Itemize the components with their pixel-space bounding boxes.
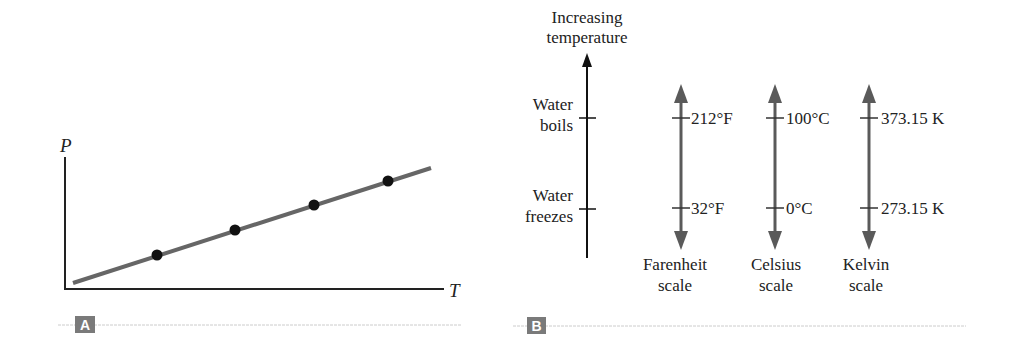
panel-b-caption: B — [513, 317, 966, 334]
panel-b-diagram: Increasing temperature Water boils Water… — [525, 8, 945, 295]
water-boils-line1: Water — [533, 95, 573, 114]
trend-line — [73, 168, 431, 283]
kelvin-name-line1: Kelvin — [843, 255, 890, 274]
celsius-name-line2: scale — [759, 276, 793, 295]
up-arrow-icon — [674, 84, 688, 103]
data-point — [230, 225, 241, 236]
fahrenheit-boil-value: 212°F — [691, 109, 733, 128]
panel-label-b: B — [531, 318, 541, 334]
water-boils-line2: boils — [540, 116, 573, 135]
figure: P T A Increasing temperature Water boils… — [0, 0, 1015, 363]
fahrenheit-name-line2: scale — [658, 276, 692, 295]
panel-label-a: A — [80, 317, 90, 333]
celsius-boil-value: 100°C — [786, 109, 830, 128]
fahrenheit-name-line1: Farenheit — [643, 255, 707, 274]
kelvin-name-line2: scale — [849, 276, 883, 295]
panel-a-caption: A — [58, 316, 462, 333]
up-arrow-icon — [862, 84, 876, 103]
fahrenheit-freeze-value: 32°F — [691, 199, 724, 218]
data-point — [309, 200, 320, 211]
water-freezes-line2: freezes — [525, 207, 573, 226]
increasing-temperature-line2: temperature — [546, 28, 627, 47]
kelvin-freeze-value: 273.15 K — [881, 199, 945, 218]
data-point — [152, 250, 163, 261]
fahrenheit-scale: 212°F 32°F Farenheit scale — [643, 84, 733, 295]
up-arrow-icon — [768, 84, 782, 103]
increasing-temperature-line1: Increasing — [552, 8, 623, 27]
y-axis-label: P — [59, 135, 72, 156]
x-axis-label: T — [449, 280, 461, 301]
down-arrow-icon — [768, 231, 782, 250]
arrow-head-icon — [582, 53, 592, 67]
celsius-scale: 100°C 0°C Celsius scale — [751, 84, 830, 295]
panel-a-chart: P T — [59, 135, 461, 301]
down-arrow-icon — [674, 231, 688, 250]
celsius-name-line1: Celsius — [751, 255, 801, 274]
water-freezes-line1: Water — [533, 186, 573, 205]
celsius-freeze-value: 0°C — [786, 199, 813, 218]
down-arrow-icon — [862, 231, 876, 250]
kelvin-boil-value: 373.15 K — [881, 109, 945, 128]
kelvin-scale: 373.15 K 273.15 K Kelvin scale — [843, 84, 945, 295]
data-point — [383, 176, 394, 187]
